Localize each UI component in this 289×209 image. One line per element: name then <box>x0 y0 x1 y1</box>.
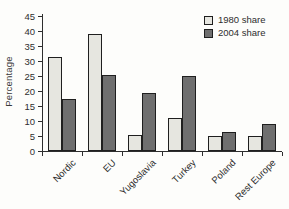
y-tick-label: 15 <box>15 102 35 111</box>
bar-2004-poland <box>222 132 236 152</box>
x-tick-mark <box>242 152 243 156</box>
legend-label-2004: 2004 share <box>218 28 266 38</box>
x-tick-mark <box>202 152 203 156</box>
y-tick-mark <box>38 91 42 92</box>
legend-label-1980: 1980 share <box>218 15 266 25</box>
y-tick-label: 40 <box>15 27 35 36</box>
bar-2004-yugoslavia <box>142 93 156 152</box>
y-tick-mark <box>38 31 42 32</box>
y-tick-label: 25 <box>15 72 35 81</box>
bar-1980-yugoslavia <box>128 135 142 152</box>
legend-item-2004: 2004 share <box>204 28 266 38</box>
y-tick-mark <box>38 76 42 77</box>
bar-1980-rest-europe <box>248 136 262 151</box>
y-tick-label: 35 <box>15 42 35 51</box>
y-tick-label: 30 <box>15 57 35 66</box>
y-tick-mark <box>38 136 42 137</box>
y-axis-title: Percentage <box>3 47 14 117</box>
bar-1980-turkey <box>168 118 182 151</box>
y-tick-label: 45 <box>15 12 35 21</box>
y-axis-line <box>42 14 43 152</box>
y-tick-label: 10 <box>15 117 35 126</box>
x-tick-mark <box>82 152 83 156</box>
bar-1980-eu <box>88 34 102 151</box>
legend-swatch-1980 <box>204 16 213 25</box>
x-tick-mark <box>162 152 163 156</box>
bar-1980-nordic <box>48 57 62 152</box>
y-tick-mark <box>38 16 42 17</box>
legend: 1980 share 2004 share <box>204 15 266 38</box>
x-tick-mark <box>122 152 123 156</box>
y-tick-mark <box>38 106 42 107</box>
legend-item-1980: 1980 share <box>204 15 266 25</box>
bar-2004-rest-europe <box>262 124 276 151</box>
y-tick-label: 0 <box>15 147 35 156</box>
legend-swatch-2004 <box>204 29 213 38</box>
bar-2004-eu <box>102 75 116 152</box>
bar-1980-poland <box>208 136 222 151</box>
y-tick-label: 5 <box>15 132 35 141</box>
bar-2004-nordic <box>62 99 76 152</box>
x-tick-mark <box>282 152 283 156</box>
bar-2004-turkey <box>182 76 196 151</box>
y-tick-label: 20 <box>15 87 35 96</box>
x-tick-mark <box>42 152 43 156</box>
y-tick-mark <box>38 121 42 122</box>
y-tick-mark <box>38 46 42 47</box>
bar-chart: Percentage 051015202530354045NordicEUYug… <box>0 0 289 209</box>
y-tick-mark <box>38 61 42 62</box>
